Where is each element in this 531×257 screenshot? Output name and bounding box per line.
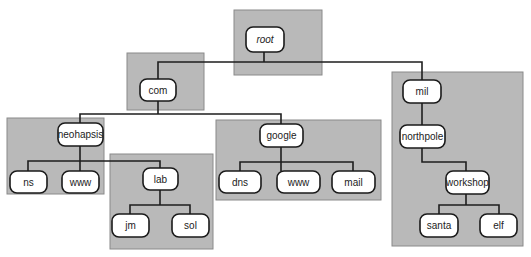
node-label: sol <box>184 220 197 231</box>
node-label: com <box>149 85 168 96</box>
node-neohapsis[interactable]: neohapsis <box>58 123 104 146</box>
node-workshop[interactable]: workshop <box>445 171 489 194</box>
node-label: elf <box>493 220 504 231</box>
node-label: lab <box>154 174 168 185</box>
node-mil[interactable]: mil <box>403 80 441 103</box>
node-google[interactable]: google <box>260 124 303 147</box>
node-label: santa <box>427 220 452 231</box>
node-label: neohapsis <box>58 129 104 140</box>
node-label: www <box>287 177 310 188</box>
node-root[interactable]: root <box>246 27 284 52</box>
node-dns[interactable]: dns <box>219 171 261 193</box>
node-label: www <box>69 177 92 188</box>
node-ns[interactable]: ns <box>10 171 47 193</box>
node-label: mil <box>416 86 429 97</box>
node-northpole[interactable]: northpole <box>400 125 445 148</box>
node-label: google <box>266 130 296 141</box>
node-www-neohapsis[interactable]: www <box>62 171 99 193</box>
node-santa[interactable]: santa <box>420 214 458 237</box>
node-label: jm <box>124 220 136 231</box>
node-label: root <box>256 34 274 45</box>
node-com[interactable]: com <box>140 79 176 101</box>
node-elf[interactable]: elf <box>480 214 517 237</box>
node-label: northpole <box>402 131 444 142</box>
node-lab[interactable]: lab <box>143 168 178 190</box>
node-label: ns <box>23 177 34 188</box>
node-sol[interactable]: sol <box>172 214 209 237</box>
dns-tree-diagram: root com mil neohapsis ns www lab jm sol… <box>0 0 531 257</box>
node-mail[interactable]: mail <box>332 171 375 193</box>
node-label: workshop <box>445 177 489 188</box>
node-jm[interactable]: jm <box>112 214 149 237</box>
node-label: mail <box>344 177 362 188</box>
node-www-google[interactable]: www <box>277 171 320 193</box>
node-label: dns <box>232 177 248 188</box>
